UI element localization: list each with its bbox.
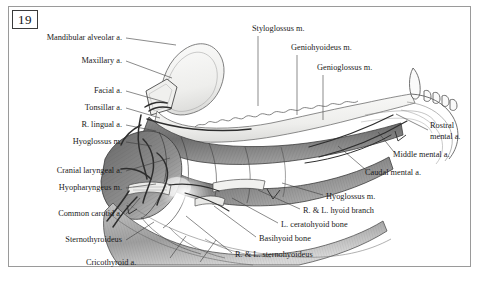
label-r-l-sternohyoideus: R. & L. sternohyoideus	[235, 250, 313, 260]
label-rostral-mental-a-line2: mental a.	[430, 132, 460, 142]
label-hyoglossus-m-right: Hyoglossus m.	[326, 192, 375, 202]
label-l-ceratohyoid-bone: L. ceratohyoid bone	[281, 220, 348, 230]
label-geniohyoideus-m: Geniohyoideus m.	[291, 43, 352, 53]
label-r-l-hyoid-branch: R. & L. hyoid branch	[303, 206, 374, 216]
label-maxillary-a: Maxillary a.	[14, 56, 122, 66]
label-facial-a: Facial a.	[14, 86, 122, 96]
label-hyopharyngeus-m: Hyopharyngeus m.	[4, 183, 122, 193]
label-layer: Mandibular alveolar a. Maxillary a. Faci…	[0, 0, 487, 283]
label-r-lingual-a: R. lingual a.	[14, 120, 122, 130]
label-cranial-laryngeal-a: Cranial laryngeal a.	[4, 166, 122, 176]
label-caudal-mental-a: Caudal mental a.	[365, 168, 421, 178]
figure-number-badge: 19	[12, 10, 38, 29]
label-rostral-mental-a-line1: Rostral	[430, 121, 454, 131]
label-tonsillar-a: Tonsillar a.	[14, 103, 122, 113]
label-cricothyroid-a: Cricothyroid a.	[86, 258, 136, 268]
label-hyoglossus-m-left: Hyoglossus m.	[14, 137, 122, 147]
label-sternothyroideus: Sternothyroideus	[4, 235, 122, 245]
label-middle-mental-a: Middle mental a.	[393, 150, 449, 160]
label-genioglossus-m: Genioglossus m.	[317, 63, 372, 73]
label-basihyoid-bone: Basihyoid bone	[259, 234, 311, 244]
label-common-carotid-a: Common carotid a.	[4, 209, 122, 219]
figure-container: 19	[0, 0, 487, 283]
label-styloglossus-m: Styloglossus m.	[252, 24, 305, 34]
label-mandibular-alveolar-a: Mandibular alveolar a.	[14, 33, 122, 43]
